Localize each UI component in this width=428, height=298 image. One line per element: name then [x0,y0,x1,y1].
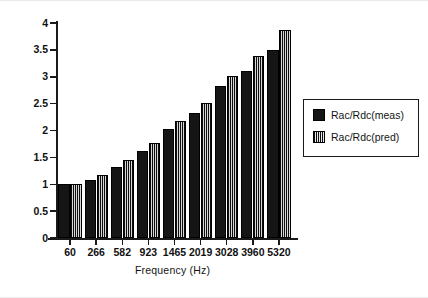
y-axis-tick-label: 3 [2,71,48,82]
y-axis-tick-label: 2 [2,125,48,136]
bar-pred-923 [149,143,160,238]
bar-meas-3028 [215,86,226,238]
chart-figure: 00.511.522.533.54 Frequency (Hz) Rac/Rdc… [0,0,428,298]
bar-pred-3028 [227,76,238,238]
y-axis-tick [50,49,57,51]
bar-meas-582 [111,167,122,238]
legend-swatch-meas-icon [313,109,325,121]
x-axis-tick-label: 5320 [263,247,295,258]
bar-pred-582 [123,160,134,238]
legend-item-pred[interactable]: Rac/Rdc(pred) [313,131,399,143]
y-axis-tick [50,237,57,239]
x-axis-tick [278,238,280,245]
bar-meas-1465 [163,129,174,238]
y-axis-tick-label: 1.5 [2,152,48,163]
bar-pred-1465 [175,121,186,238]
legend-label-pred: Rac/Rdc(pred) [331,132,399,143]
legend-swatch-pred-icon [313,131,325,143]
bar-meas-5320 [267,50,278,238]
x-axis-tick [122,238,124,245]
bar-pred-60 [70,184,81,238]
x-axis-tick [252,238,254,245]
x-axis-title: Frequency (Hz) [0,264,345,276]
bar-pred-2019 [201,103,212,238]
legend-item-meas[interactable]: Rac/Rdc(meas) [313,109,404,121]
y-axis-tick [50,22,57,24]
y-axis-tick [50,103,57,105]
x-axis-tick [226,238,228,245]
y-axis-tick-label: 1 [2,179,48,190]
y-axis-tick [50,76,57,78]
bar-meas-60 [58,184,69,238]
x-axis-tick [69,238,71,245]
x-axis-tick [174,238,176,245]
y-axis-tick-label: 0.5 [2,206,48,217]
bar-pred-5320 [279,30,290,238]
bar-pred-3960 [253,56,264,238]
y-axis-tick-label: 3.5 [2,44,48,55]
legend-label-meas: Rac/Rdc(meas) [331,110,404,121]
bar-meas-923 [137,151,148,238]
bar-pred-266 [97,175,108,238]
y-axis-tick [50,184,57,186]
y-axis-tick-labels: 00.511.522.533.54 [0,0,48,298]
y-axis-tick-label: 0 [2,233,48,244]
x-axis-tick [148,238,150,245]
y-axis-tick [50,157,57,159]
y-axis-tick [50,210,57,212]
y-axis-tick-label: 2.5 [2,98,48,109]
x-axis-tick [95,238,97,245]
plot-area [57,23,292,238]
y-axis-tick-label: 4 [2,18,48,29]
bar-meas-266 [85,180,96,238]
chart-legend: Rac/Rdc(meas) Rac/Rdc(pred) [303,99,419,157]
x-axis-tick [200,238,202,245]
y-axis-tick [50,130,57,132]
bar-meas-2019 [189,113,200,238]
bar-meas-3960 [241,71,252,238]
figure-top-rule [0,0,428,1]
